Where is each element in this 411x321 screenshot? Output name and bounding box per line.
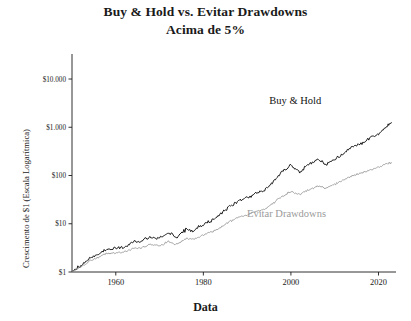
chart-canvas: $1$10$100$1.000$10.0001960198020002020Bu… <box>0 0 411 321</box>
series-annotation-buy-hold: Buy & Hold <box>269 95 322 106</box>
y-tick-label: $1 <box>59 269 67 277</box>
y-tick-label: $10.000 <box>43 76 67 84</box>
x-tick-label: 1960 <box>107 278 124 287</box>
chart-root: Buy & Hold vs. Evitar Drawdowns Acima de… <box>0 0 411 321</box>
y-tick-label: $1.000 <box>46 124 66 132</box>
x-axis-label: Data <box>0 300 411 315</box>
x-tick-label: 2020 <box>370 278 387 287</box>
series-annotation-evitar-drawdowns: Evitar Drawdowns <box>247 208 326 219</box>
series-line-evitar-drawdowns <box>72 162 392 271</box>
series-line-buy-hold <box>72 123 392 272</box>
x-tick-label: 2000 <box>283 278 300 287</box>
y-tick-label: $10 <box>55 220 66 228</box>
x-tick-label: 1980 <box>195 278 212 287</box>
y-tick-label: $100 <box>52 172 67 180</box>
